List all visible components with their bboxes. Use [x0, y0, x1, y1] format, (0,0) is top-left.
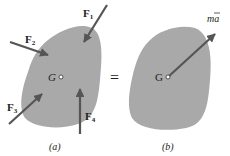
- label-f2: F2: [25, 33, 36, 47]
- label-f1: F1: [83, 7, 94, 21]
- center-of-mass-point-a: [59, 75, 63, 79]
- free-body-diagram: F1 F2 F3 F4 G = G ma (a) (b): [0, 0, 230, 156]
- center-of-mass-label-a: G: [48, 71, 56, 83]
- resultant-label: ma: [207, 13, 219, 24]
- equals-sign: =: [110, 69, 119, 86]
- label-f3: F3: [7, 101, 18, 115]
- caption-a: (a): [49, 141, 61, 153]
- caption-b: (b): [162, 141, 174, 153]
- center-of-mass-label-b: G: [155, 71, 163, 83]
- label-f4: F4: [85, 110, 96, 124]
- center-of-mass-point-b: [166, 75, 170, 79]
